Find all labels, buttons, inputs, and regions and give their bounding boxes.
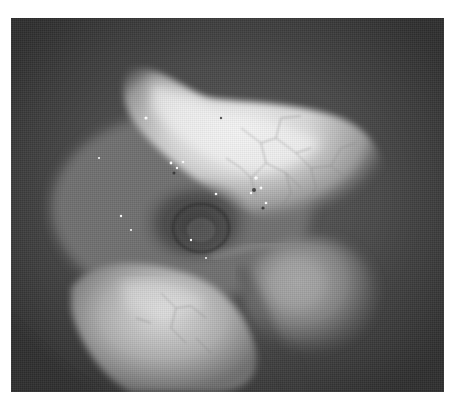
photo-illustration: [11, 18, 444, 392]
endoscopic-photo: [11, 18, 444, 392]
